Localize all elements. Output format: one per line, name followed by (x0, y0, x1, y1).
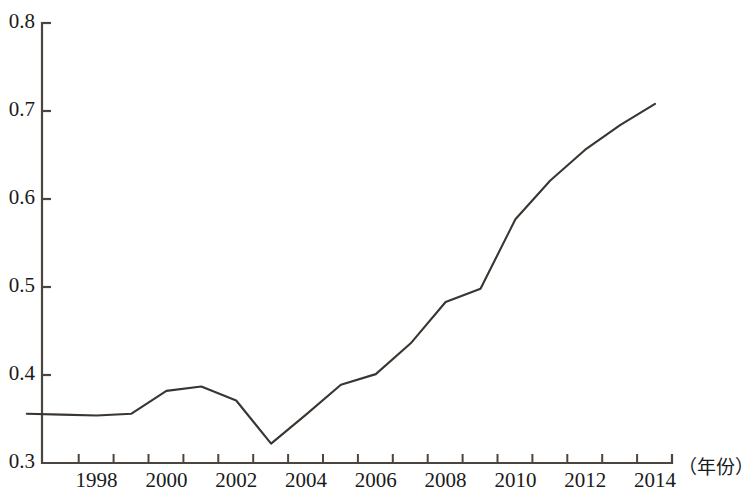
x-axis-tick-label: 2006 (351, 468, 401, 490)
y-axis-tick-label: 0.4 (0, 361, 35, 386)
x-axis-tick-label: 2000 (141, 468, 191, 490)
x-axis-tick-label: 2008 (421, 468, 471, 490)
y-axis-tick-label: 0.6 (0, 185, 35, 210)
y-axis-tick-label: 0.3 (0, 449, 35, 474)
x-axis-tick-label: 1998 (72, 468, 122, 490)
x-axis-tick-label: 2014 (630, 468, 680, 490)
data-series-line (27, 104, 655, 444)
chart-figure: 0.80.70.60.50.40.3 199820002002200420062… (0, 0, 749, 490)
x-axis-tick-label: 2002 (211, 468, 261, 490)
chart-axes (42, 23, 672, 463)
y-axis-tick-label: 0.5 (0, 273, 35, 298)
x-axis-tick-label: 2012 (560, 468, 610, 490)
y-axis-tick-label: 0.7 (0, 97, 35, 122)
line-chart-plot (0, 0, 749, 490)
y-axis-tick-label: 0.8 (0, 9, 35, 34)
x-axis-unit-label: （年份） (678, 452, 749, 479)
x-axis-tick-label: 2010 (490, 468, 540, 490)
x-axis-tick-label: 2004 (281, 468, 331, 490)
